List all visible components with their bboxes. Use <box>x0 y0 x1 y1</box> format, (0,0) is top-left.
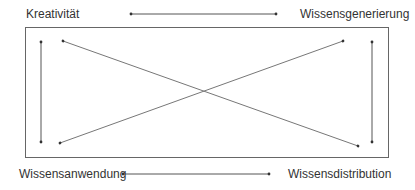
arrow-kreativitaet-wissensdistribution <box>63 41 358 146</box>
diagram-lines <box>0 0 415 190</box>
node-wissensanwendung: Wissensanwendung <box>19 167 126 181</box>
knowledge-cycle-diagram: Kreativität Wissensgenerierung Wissensan… <box>0 0 415 190</box>
node-wissensgenerierung: Wissensgenerierung <box>300 7 409 21</box>
node-wissensdistribution: Wissensdistribution <box>288 167 391 181</box>
node-kreativitaet: Kreativität <box>26 7 79 21</box>
arrow-wissensanwendung-wissensgenerierung <box>60 41 343 143</box>
